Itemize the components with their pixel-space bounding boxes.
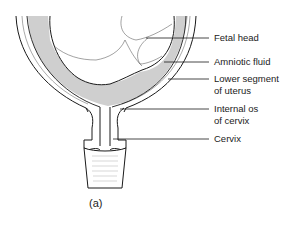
- label-cervix: Cervix: [214, 133, 241, 145]
- label-internal-os-line1: Internal os: [214, 103, 258, 115]
- figure-caption: (a): [89, 197, 102, 209]
- vagina: [84, 148, 126, 188]
- label-internal-os-line2: of cervix: [214, 115, 249, 127]
- cervix-right: [110, 108, 126, 150]
- label-amniotic-fluid: Amniotic fluid: [214, 56, 271, 68]
- label-lower-segment-line2: of uterus: [214, 85, 251, 97]
- label-fetal-head: Fetal head: [214, 32, 259, 44]
- cervix-left: [84, 108, 100, 150]
- label-lower-segment-line1: Lower segment: [214, 73, 279, 85]
